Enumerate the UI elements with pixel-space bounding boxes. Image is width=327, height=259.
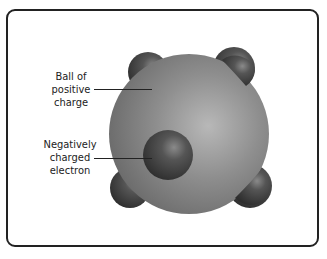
leader-line-electron bbox=[94, 158, 152, 159]
leader-line-positive bbox=[94, 89, 152, 90]
atom-model bbox=[0, 0, 327, 259]
electron-front bbox=[143, 130, 193, 180]
label-positive-charge: Ball of positive charge bbox=[49, 70, 94, 109]
label-electron: Negatively charged electron bbox=[43, 138, 97, 177]
